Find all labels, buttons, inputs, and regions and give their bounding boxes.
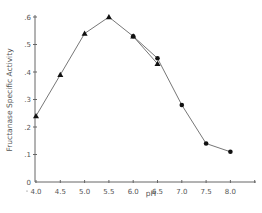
circle-marker bbox=[131, 34, 136, 39]
x-tick-label: 7.0 bbox=[176, 188, 187, 196]
triangle-series-line bbox=[36, 17, 158, 116]
x-tick-label: 7.5 bbox=[201, 188, 212, 196]
circle-marker bbox=[155, 56, 160, 61]
y-tick-label: 0 bbox=[27, 179, 31, 187]
y-tick-label: .5 bbox=[24, 41, 31, 49]
chart: 0.1.2.3.4.5.6 4.04.55.05.56.06.57.07.58.… bbox=[0, 0, 262, 213]
x-tick-label: 8.0 bbox=[225, 188, 236, 196]
circle-marker bbox=[204, 141, 209, 146]
data-markers bbox=[33, 14, 233, 154]
circle-series-line bbox=[133, 36, 230, 152]
x-axis-label: pH bbox=[146, 189, 156, 198]
y-tick-label: .6 bbox=[24, 14, 31, 22]
stray-mark bbox=[26, 190, 27, 191]
x-tick-label: 6.0 bbox=[128, 188, 139, 196]
triangle-marker bbox=[106, 14, 112, 19]
x-tick-label: 4.5 bbox=[55, 188, 66, 196]
y-tick-label: .3 bbox=[24, 96, 31, 104]
circle-marker bbox=[228, 149, 233, 154]
triangle-marker bbox=[82, 31, 88, 36]
x-tick-label: 4.0 bbox=[30, 188, 41, 196]
x-tick-label: 5.5 bbox=[103, 188, 114, 196]
y-tick-label: .1 bbox=[24, 151, 31, 159]
y-axis-label: Fructanase Specific Activity bbox=[5, 48, 14, 152]
y-tick-label: .2 bbox=[24, 124, 31, 132]
circle-marker bbox=[180, 103, 185, 108]
axes bbox=[35, 15, 256, 182]
triangle-marker bbox=[57, 72, 63, 77]
y-tick-label: .4 bbox=[24, 69, 31, 77]
x-tick-label: 5.0 bbox=[79, 188, 90, 196]
triangle-marker bbox=[33, 113, 39, 118]
